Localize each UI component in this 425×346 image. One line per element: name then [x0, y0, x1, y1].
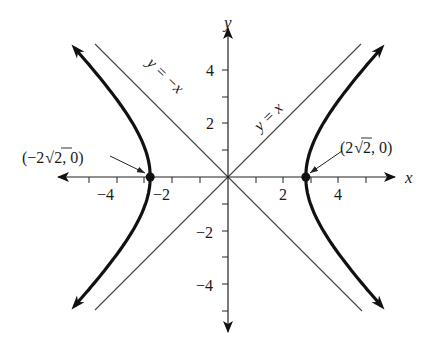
- vertex-right-pointer: [310, 151, 342, 173]
- tick-label-x-neg4: −4: [97, 186, 114, 203]
- tick-label-x-4: 4: [334, 186, 342, 203]
- asymptote-label-neg: y = −x: [142, 53, 187, 98]
- svg-text:(−2√2, 0): (−2√2, 0): [22, 149, 83, 167]
- x-axis-label: x: [404, 168, 413, 187]
- tick-label-y-2: 2: [206, 115, 214, 132]
- vertex-left-pointer: [110, 156, 145, 173]
- y-ticks: [222, 70, 228, 311]
- vertex-right-label: (2√2, 0): [340, 138, 392, 157]
- tick-label-y-4: 4: [206, 62, 214, 79]
- asymptote-label-pos: y = x: [249, 99, 287, 136]
- hyperbola-figure: x y −4 −2 2 4 4 2 −2 −4 y = −x y = x (−2…: [0, 0, 425, 346]
- y-axis-label: y: [222, 13, 232, 32]
- tick-label-y-neg4: −4: [196, 277, 213, 294]
- tick-label-x-neg2: −2: [153, 186, 170, 203]
- tick-label-y-neg2: −2: [196, 224, 213, 241]
- svg-text:(2√2, 0): (2√2, 0): [340, 139, 392, 157]
- vertex-left-label: (−2√2, 0): [22, 148, 83, 167]
- vertex-left-dot: [146, 173, 155, 182]
- vertex-right-dot: [301, 173, 310, 182]
- tick-label-x-2: 2: [279, 186, 287, 203]
